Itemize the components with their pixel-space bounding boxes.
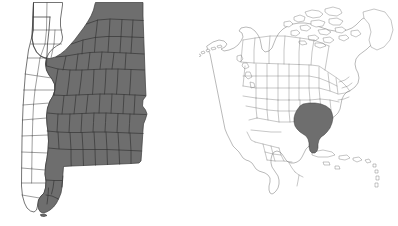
- coastal-island: [41, 214, 48, 217]
- state-county-map-panel: [0, 0, 199, 226]
- locator-map-figure: [0, 0, 398, 226]
- caribbean-islands: [312, 150, 379, 187]
- north-america-locator-panel: [199, 0, 398, 226]
- north-america-locator-svg: [199, 0, 398, 226]
- state-county-map-svg: [0, 0, 199, 226]
